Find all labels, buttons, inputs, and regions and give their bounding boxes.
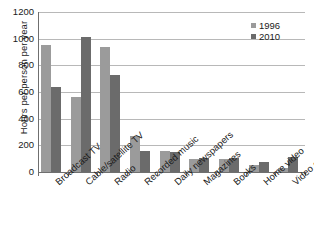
bar-2010 (81, 37, 91, 172)
bar-2010 (259, 162, 269, 172)
y-tick-label: 0 (29, 167, 34, 177)
bar-1996 (219, 159, 229, 172)
x-tick (246, 172, 247, 176)
bar-1996 (249, 165, 259, 172)
bar-1996 (41, 45, 51, 172)
chart-legend: 19962010 (251, 20, 280, 42)
y-axis-line (38, 12, 39, 173)
bar-group (38, 12, 68, 172)
bar-1996 (71, 97, 81, 172)
y-tick-label: 800 (18, 60, 34, 70)
bar-2010 (51, 87, 61, 172)
bar-2010 (110, 75, 120, 172)
legend-item: 1996 (251, 20, 280, 31)
x-tick (127, 172, 128, 176)
bar-group (97, 12, 127, 172)
x-tick (68, 172, 69, 176)
x-tick (216, 172, 217, 176)
bar-group (127, 12, 157, 172)
bar-2010 (140, 151, 150, 172)
x-tick (275, 172, 276, 176)
bar-1996 (100, 47, 110, 172)
y-tick-label: 1200 (13, 7, 34, 17)
y-axis-tick-labels: 020040060080010001200 (0, 12, 36, 172)
x-tick (186, 172, 187, 176)
legend-swatch-icon (251, 23, 256, 28)
y-tick-label: 600 (18, 87, 34, 97)
legend-item: 2010 (251, 31, 280, 42)
x-tick (305, 172, 306, 176)
x-tick (38, 172, 39, 176)
legend-swatch-icon (251, 34, 256, 39)
bar-2010 (229, 158, 239, 172)
y-tick-label: 1000 (13, 34, 34, 44)
bar-chart: Hours per person per year 02004006008001… (0, 0, 314, 249)
bar-group (157, 12, 187, 172)
legend-label: 2010 (259, 31, 280, 42)
x-axis-line (38, 172, 305, 173)
y-tick-label: 400 (18, 114, 34, 124)
bar-group (186, 12, 216, 172)
bar-2010 (288, 157, 298, 172)
bar-1996 (189, 159, 199, 172)
bar-1996 (160, 151, 170, 172)
bar-group (216, 12, 246, 172)
bar-2010 (170, 152, 180, 172)
y-tick-label: 200 (18, 140, 34, 150)
bar-1996 (130, 136, 140, 172)
x-tick (97, 172, 98, 176)
legend-label: 1996 (259, 20, 280, 31)
x-tick (157, 172, 158, 176)
bar-2010 (199, 158, 209, 172)
bar-group (68, 12, 98, 172)
